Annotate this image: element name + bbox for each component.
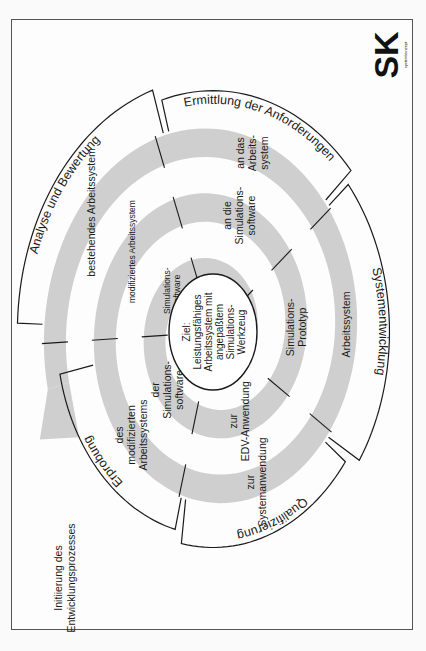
ring-label: an dasArbeits-system xyxy=(234,134,270,171)
development-spiral-diagram: Analyse und BewertungErmittlung der Anfo… xyxy=(0,0,426,651)
goal-text-line: Werkzeug xyxy=(236,310,247,355)
ring-label-line: system xyxy=(258,136,270,170)
ring-label-line: software xyxy=(173,370,185,410)
goal-text-line: Ziel: xyxy=(181,323,192,342)
ring-label: zurEDV-Anwendung xyxy=(227,381,251,461)
ring-label-line: Prototyp xyxy=(296,308,308,347)
phase-label-systementwicklung: Systementwicklung xyxy=(369,266,390,376)
goal-text-line: angepaßtem xyxy=(214,304,225,360)
ring-label-line: software xyxy=(245,196,257,236)
ring-label: modifiziertes Arbeitssystem xyxy=(127,200,137,303)
start-label: Initiierung desEntwicklungsprozesses xyxy=(52,523,77,632)
goal-ellipse: Ziel:LeistungsfähigesArbeitssystem mitan… xyxy=(169,274,257,390)
ring-label-line: modifiziertes Arbeitssystem xyxy=(127,200,137,303)
ring-label-line: an das xyxy=(234,137,246,169)
ring-label-line: bestehendes Arbeitssystem xyxy=(85,148,97,277)
phase-label-qualifizierung: Qualifizierung xyxy=(236,495,311,543)
goal-text-line: Leistungsfähiges xyxy=(192,294,203,369)
goal-text-line: Simulations- xyxy=(225,304,236,359)
ring-label-line: zur xyxy=(227,413,239,428)
ring-label: an dieSimulations-software xyxy=(221,186,257,244)
spiral-tail xyxy=(40,382,79,439)
ring-label-line: Arbeitssystems xyxy=(137,399,149,470)
ring-label-line: Simulations- xyxy=(161,360,173,418)
ring-label: Arbeitssystem xyxy=(340,291,352,357)
ring-label-line: Arbeits- xyxy=(246,134,258,171)
goal-text-line: Arbeitssystem mit xyxy=(203,292,214,371)
ring-label-line: modifizierten xyxy=(125,405,137,465)
start-label-line: Initiierung des xyxy=(52,545,64,610)
ring-label-line: Arbeitssystem xyxy=(340,291,352,357)
logo-subtext: systemkonzept xyxy=(403,41,408,69)
start-label-line: Entwicklungsprozesses xyxy=(65,523,77,632)
logo-mark: SK xyxy=(367,31,405,79)
ring-label-line: Simulations- xyxy=(162,267,172,314)
ring-label-line: an die xyxy=(221,201,233,230)
ring-label-line: EDV-Anwendung xyxy=(239,381,251,461)
ring-label-line: Simulations- xyxy=(233,186,245,244)
ring-label-line: Simulations- xyxy=(284,298,296,356)
ring-label-line: des xyxy=(113,427,125,444)
sk-logo: SK systemkonzept xyxy=(367,31,408,79)
ring-label-line: Systemanwendung xyxy=(256,437,268,526)
ring-label-line: der xyxy=(149,382,161,398)
ring-label: bestehendes Arbeitssystem xyxy=(85,148,97,277)
ring-label-line: zur xyxy=(244,474,256,489)
